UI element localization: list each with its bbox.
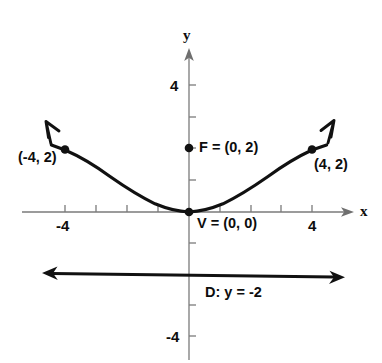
parabola-figure: y x 4 -4 -4 4 F = (0, 2) V = (0, 0) (-4,… [0,0,382,363]
point-right-label: (4, 2) [314,157,348,172]
x-tick-label-minus4: -4 [56,218,69,233]
focus-point-dot [185,144,194,153]
directrix-line [52,274,334,278]
y-tick-label-4: 4 [170,78,178,93]
parabola-right-arrowhead [321,121,334,144]
y-tick-label-minus4: -4 [166,329,179,344]
directrix-label: D: y = -2 [205,285,262,300]
left-point-dot [61,145,70,154]
right-point-dot [308,145,317,154]
vertex-label: V = (0, 0) [197,216,257,231]
vertex-point-dot [185,208,194,217]
point-left-label: (-4, 2) [18,150,57,165]
x-tick-label-4: 4 [308,218,316,233]
focus-label: F = (0, 2) [199,140,258,155]
y-axis-label: y [183,28,191,43]
parabola-left-arrowhead [46,122,59,145]
x-axis-label: x [360,204,368,219]
plot-canvas [0,0,382,363]
